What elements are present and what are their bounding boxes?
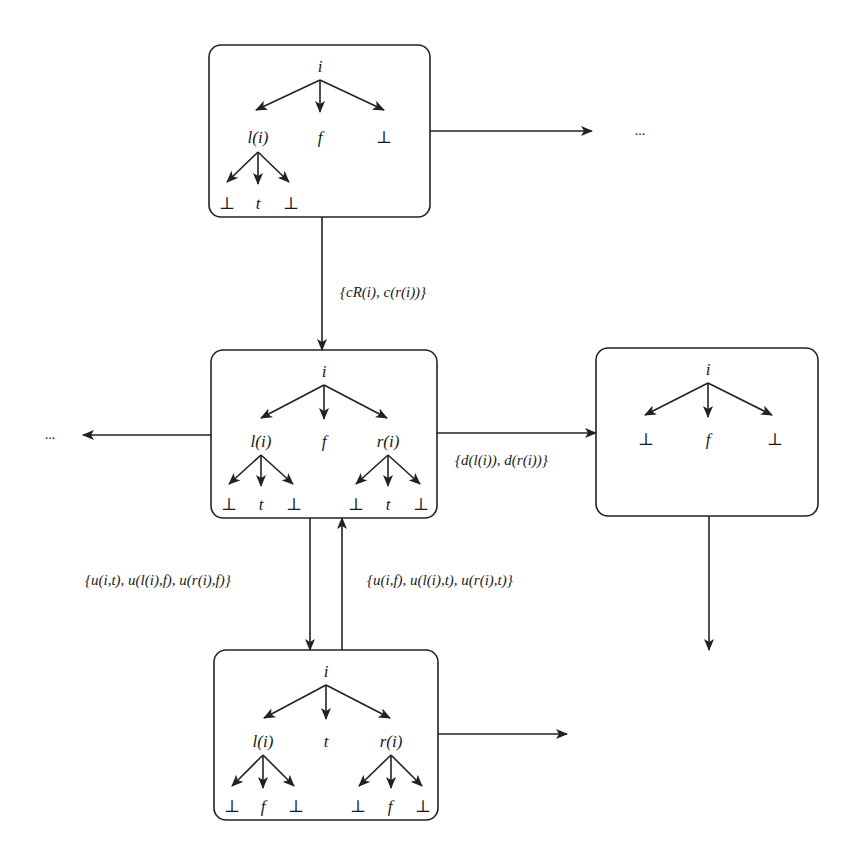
s3-root: i bbox=[706, 360, 711, 379]
transition-s4-s2-label: {u(i,f), u(l(i),t), u(r(i),t)} bbox=[367, 572, 513, 589]
s4-l-leaf-2: f bbox=[261, 797, 268, 816]
s2-child-l: l(i) bbox=[251, 432, 272, 451]
s4-l-edge-right bbox=[263, 755, 294, 786]
s1-l-leaf-2: t bbox=[256, 194, 262, 213]
s4-r-edge-right bbox=[391, 755, 422, 786]
s2-r-edge-left bbox=[356, 455, 388, 484]
s2-l-leaf-3: ⊥ bbox=[286, 495, 302, 514]
state-box-4: i l(i) t r(i) ⊥ f ⊥ ⊥ f ⊥ bbox=[214, 650, 438, 820]
s4-child-r: r(i) bbox=[380, 732, 403, 751]
s1-child-bottom: ⊥ bbox=[376, 128, 392, 147]
s2-child-r: r(i) bbox=[377, 432, 400, 451]
state-diagram: i l(i) f ⊥ ⊥ t ⊥ ... {cR(i), c(r(i))} i … bbox=[0, 0, 861, 866]
s3-child-1: ⊥ bbox=[638, 430, 654, 449]
s3-child-2: f bbox=[706, 430, 713, 449]
s4-l-leaf-1: ⊥ bbox=[224, 797, 240, 816]
s2-edge-right bbox=[324, 385, 387, 418]
s1-l-edge-right bbox=[258, 152, 289, 182]
s4-child-l: l(i) bbox=[253, 732, 274, 751]
state-box-3: i ⊥ f ⊥ bbox=[596, 348, 818, 516]
s4-l-leaf-3: ⊥ bbox=[288, 797, 304, 816]
s2-l-leaf-2: t bbox=[259, 495, 265, 514]
state-box-1: i l(i) f ⊥ ⊥ t ⊥ bbox=[209, 45, 430, 217]
s1-child-f: f bbox=[318, 128, 325, 147]
s2-l-leaf-1: ⊥ bbox=[221, 495, 237, 514]
s1-l-leaf-3: ⊥ bbox=[283, 194, 299, 213]
s2-r-leaf-3: ⊥ bbox=[413, 495, 429, 514]
s2-l-edge-left bbox=[229, 455, 261, 484]
s3-edge-left bbox=[645, 383, 708, 415]
s2-child-f: f bbox=[322, 432, 329, 451]
s4-edge-left bbox=[264, 685, 326, 718]
s2-r-leaf-1: ⊥ bbox=[348, 495, 364, 514]
s1-edge-left bbox=[256, 80, 320, 110]
s4-root: i bbox=[324, 662, 329, 681]
s2-root: i bbox=[322, 362, 327, 381]
ellipsis-left: ... bbox=[45, 427, 56, 442]
s3-edge-right bbox=[708, 383, 772, 415]
transition-s1-s2-label: {cR(i), c(r(i))} bbox=[340, 284, 426, 301]
s1-edge-right bbox=[320, 80, 384, 110]
s1-l-leaf-1: ⊥ bbox=[219, 194, 235, 213]
s4-r-edge-left bbox=[359, 755, 391, 786]
s1-root: i bbox=[318, 57, 323, 76]
s2-edge-left bbox=[261, 385, 324, 418]
s3-child-3: ⊥ bbox=[767, 430, 783, 449]
transition-s2-s4-label: {u(i,t), u(l(i),f), u(r(i),f)} bbox=[85, 572, 231, 589]
s2-l-edge-right bbox=[261, 455, 293, 484]
ellipsis-right: ... bbox=[635, 123, 646, 138]
s4-l-edge-left bbox=[232, 755, 263, 786]
s4-edge-right bbox=[326, 685, 390, 718]
s4-r-leaf-2: f bbox=[388, 797, 395, 816]
transition-s2-s3-label: {d(l(i)), d(r(i))} bbox=[455, 452, 548, 469]
s1-l-edge-left bbox=[227, 152, 258, 182]
s2-r-leaf-2: t bbox=[386, 495, 392, 514]
state-box-2: i l(i) f r(i) ⊥ t ⊥ ⊥ t ⊥ bbox=[211, 350, 437, 518]
s1-child-l: l(i) bbox=[248, 128, 269, 147]
s4-r-leaf-3: ⊥ bbox=[415, 797, 431, 816]
s4-child-t: t bbox=[324, 732, 330, 751]
s4-r-leaf-1: ⊥ bbox=[350, 797, 366, 816]
s2-r-edge-right bbox=[388, 455, 420, 484]
